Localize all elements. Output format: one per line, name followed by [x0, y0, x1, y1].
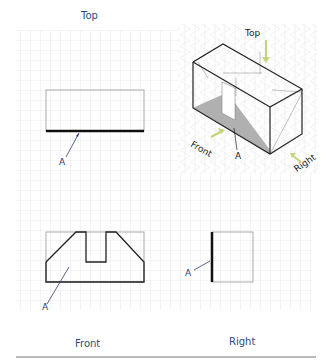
iso-marker: A: [235, 151, 241, 161]
projection-diagram: [0, 0, 329, 363]
top-view-marker: A: [59, 157, 65, 167]
iso-top-label: Top: [245, 28, 260, 38]
front-view-marker: A: [42, 302, 48, 312]
right-view-marker: A: [185, 268, 191, 278]
front-view-title: Front: [75, 338, 100, 349]
top-view-title: Top: [81, 10, 98, 21]
bottom-divider: [16, 356, 316, 358]
right-view-title: Right: [229, 336, 255, 347]
